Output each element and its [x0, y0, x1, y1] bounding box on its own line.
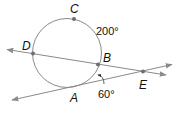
arc-measure-label: 200° [96, 25, 119, 37]
label-D: D [22, 39, 31, 53]
angle-arc-icon [98, 75, 104, 84]
angle-measure-label: 60° [98, 88, 115, 100]
point-C [72, 17, 76, 21]
label-E: E [139, 78, 148, 92]
label-A: A [69, 91, 78, 105]
label-C: C [70, 2, 79, 16]
circle [33, 19, 102, 88]
point-E [141, 70, 145, 74]
tangent-line-AE [12, 65, 172, 101]
point-D [31, 52, 35, 56]
point-B [96, 63, 100, 67]
label-B: B [103, 51, 111, 65]
geometry-diagram: C D B A E 200° 60° [0, 0, 182, 117]
